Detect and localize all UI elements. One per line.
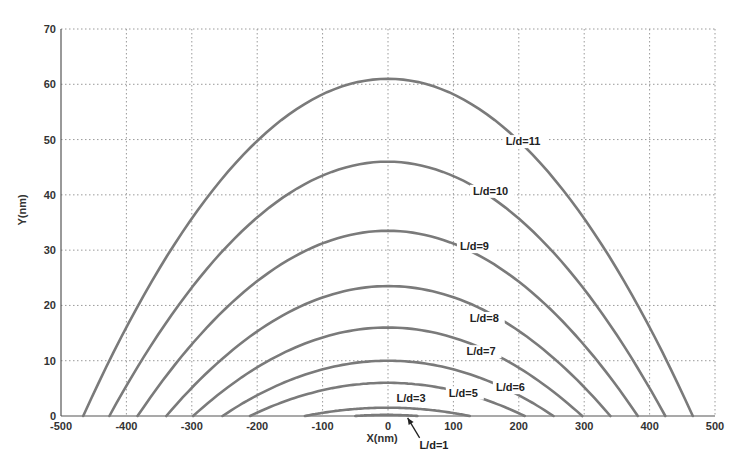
curve-label: L/d=6: [496, 381, 525, 393]
curve-l-d-1: [355, 415, 417, 416]
curve-label: L/d=5: [449, 387, 478, 399]
x-tick-label: 100: [444, 420, 462, 432]
x-tick-label: 400: [640, 420, 658, 432]
x-tick-label: 300: [575, 420, 593, 432]
x-tick-label: -400: [115, 420, 137, 432]
y-tick-label: 20: [44, 299, 56, 311]
y-tick-label: 10: [44, 355, 56, 367]
curve-label: L/d=7: [466, 345, 495, 357]
x-axis-label: X(nm): [366, 432, 398, 444]
grid-lines: [61, 29, 715, 416]
x-tick-label: -300: [181, 420, 203, 432]
curve-label: L/d=11: [506, 135, 541, 147]
curve-label: L/d=1: [419, 439, 448, 451]
curve-label: L/d=8: [470, 312, 499, 324]
y-tick-label: 0: [50, 410, 56, 422]
x-tick-label: 500: [706, 420, 724, 432]
x-tick-label: 200: [510, 420, 528, 432]
x-tick-label: -100: [312, 420, 334, 432]
y-tick-label: 50: [44, 134, 56, 146]
y-tick-label: 30: [44, 244, 56, 256]
curve-label: L/d=9: [460, 240, 489, 252]
y-axis-label: Y(nm): [16, 194, 28, 226]
curve-l-d-9: [138, 231, 638, 416]
curve-label: L/d=10: [473, 185, 508, 197]
y-tick-label: 60: [44, 78, 56, 90]
x-tick-label: -200: [246, 420, 268, 432]
x-tick-label: 0: [385, 420, 391, 432]
y-tick-label: 70: [44, 23, 56, 35]
curve-label: L/d=3: [397, 392, 426, 404]
y-tick-label: 40: [44, 189, 56, 201]
curve-l-d-7: [193, 328, 582, 417]
curve-l-d-10: [109, 162, 665, 416]
chart: L/d=11L/d=10L/d=9L/d=8L/d=7L/d=6L/d=5L/d…: [0, 0, 745, 462]
curve-labels: L/d=11L/d=10L/d=9L/d=8L/d=7L/d=6L/d=5L/d…: [394, 135, 548, 451]
